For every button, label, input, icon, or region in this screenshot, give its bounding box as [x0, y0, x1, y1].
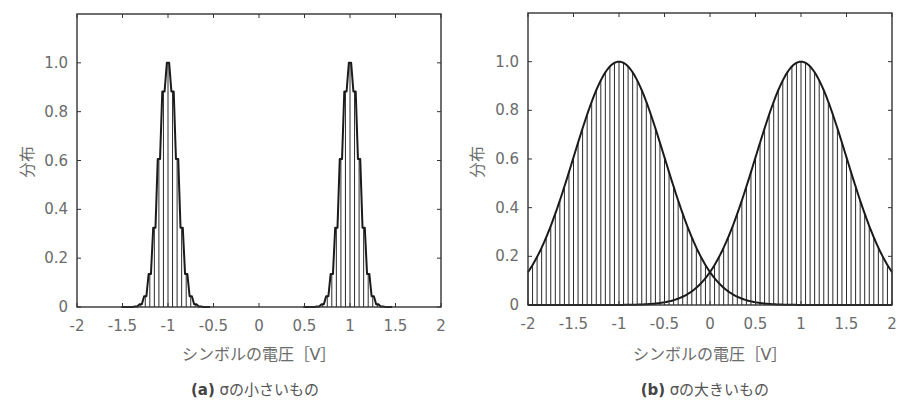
chart-a-caption-text: σの小さいもの: [220, 381, 320, 399]
x-tick-label: -0.5: [650, 315, 679, 333]
x-tick-label: -1: [612, 315, 627, 333]
chart-a-ylabel: 分布: [14, 146, 38, 178]
x-tick-label: 0.5: [293, 317, 317, 335]
y-tick-label: 0.8: [495, 101, 519, 119]
x-tick-label: -2: [521, 315, 536, 333]
chart-a-caption: (a) σの小さいもの: [191, 378, 319, 399]
x-tick-label: 2: [436, 317, 446, 335]
y-tick-label: 0.2: [44, 249, 68, 267]
x-tick-label: 1.5: [384, 317, 408, 335]
y-tick-label: 0.6: [44, 152, 68, 170]
y-tick-label: 0.8: [44, 103, 68, 121]
distribution-curve-1: [121, 63, 210, 307]
chart-b-caption: (b) σの大きいもの: [641, 378, 770, 399]
x-tick-label: -2: [70, 317, 85, 335]
y-tick-label: 1.0: [44, 54, 68, 72]
x-tick-label: -1.5: [559, 315, 588, 333]
panel-a: -2-1.5-1-0.500.511.5200.20.40.60.81.0 分布…: [0, 0, 454, 413]
x-tick-label: 1.5: [835, 315, 859, 333]
axis-ticks: [77, 14, 441, 307]
x-tick-label: 0: [254, 317, 264, 335]
chart-b-xlabel: シンボルの電圧［V］: [633, 341, 788, 365]
x-tick-label: 0.5: [744, 315, 768, 333]
y-tick-label: 0.2: [495, 247, 519, 265]
distribution-curve-2: [303, 63, 392, 307]
x-tick-label: -0.5: [199, 317, 228, 335]
x-tick-label: 1: [345, 317, 355, 335]
chart-b-ylabel: 分布: [464, 146, 488, 178]
histogram-bars: [141, 63, 378, 307]
y-tick-label: 0.4: [495, 199, 519, 217]
x-tick-label: -1.5: [108, 317, 137, 335]
y-tick-label: 0: [58, 298, 68, 316]
x-tick-label: 0: [705, 315, 715, 333]
y-tick-label: 0.6: [495, 150, 519, 168]
histogram-bars: [528, 62, 892, 305]
y-tick-label: 0: [509, 296, 519, 314]
chart-a-caption-tag: (a): [191, 381, 215, 399]
y-tick-label: 0.4: [44, 200, 68, 218]
x-tick-label: 1: [796, 315, 806, 333]
panel-b: -2-1.5-1-0.500.511.5200.20.40.60.81.0 分布…: [450, 0, 909, 413]
x-tick-label: -1: [161, 317, 176, 335]
chart-a-xlabel: シンボルの電圧［V］: [182, 341, 337, 365]
chart-b-caption-tag: (b): [641, 381, 665, 399]
plot-frame: [77, 14, 441, 307]
chart-b-caption-text: σの大きいもの: [670, 381, 770, 399]
y-tick-label: 1.0: [495, 53, 519, 71]
x-tick-label: 2: [887, 315, 897, 333]
